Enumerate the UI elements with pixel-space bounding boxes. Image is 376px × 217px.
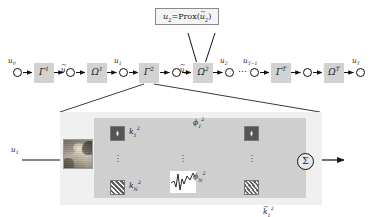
summation-node: Σ	[297, 153, 314, 170]
detail-panel-inner	[94, 118, 306, 198]
operator-gamma-1: Γ1	[34, 63, 54, 83]
label-uT: uT	[352, 57, 360, 64]
kernel-label-1: k12	[129, 128, 140, 136]
kernel-patch-transposed-N	[244, 180, 259, 195]
kernel-label-N: kN2	[129, 182, 141, 190]
label-u0: u0	[8, 57, 16, 64]
node-u-tilde-2	[172, 68, 181, 77]
input-image-thumbnail	[63, 139, 93, 169]
chain-ellipsis: ⋯	[238, 67, 248, 77]
vertical-ellipsis-activations: ...	[179, 152, 187, 161]
node-u-tilde-T	[303, 68, 312, 77]
vertical-ellipsis-kernels-transposed: ...	[248, 152, 256, 161]
vertical-ellipsis-kernels: ...	[114, 152, 122, 161]
node-u-T-minus-1	[250, 68, 259, 77]
operator-omega-1: Ω1	[87, 63, 107, 83]
node-u-tilde-1	[66, 68, 75, 77]
label-u2: u2	[220, 57, 228, 64]
operator-gamma-T: ΓT	[271, 63, 291, 83]
operator-omega-2: Ω2	[193, 63, 213, 83]
activation-label-1: ϕ12	[193, 119, 204, 127]
kernel-transposed-label-1: ~k12	[263, 208, 274, 216]
label-u1: u1	[114, 57, 122, 64]
activation-label-N: ϕN2	[193, 173, 206, 181]
label-u-T-minus-1: uT−1	[243, 57, 257, 64]
callout-text: u2=Prox(~u2)	[163, 12, 211, 21]
node-u2	[225, 68, 234, 77]
node-u0	[13, 68, 22, 77]
figure-canvas: u0 Γ1 ~u1 Ω1 u1 Γ2 ~u2 Ω2 u2 ⋯ uT−1	[0, 0, 376, 217]
callout-prox-equation: u2=Prox(~u2)	[155, 8, 219, 25]
detail-input-label: u1	[11, 146, 19, 153]
operator-gamma-2: Γ2	[139, 63, 159, 83]
kernel-patch-N	[110, 180, 125, 195]
operator-omega-T: ΩT	[324, 63, 344, 83]
kernel-patch-1	[110, 126, 125, 141]
node-uT	[356, 68, 365, 77]
node-u1	[119, 68, 128, 77]
kernel-patch-transposed-1	[244, 126, 259, 141]
